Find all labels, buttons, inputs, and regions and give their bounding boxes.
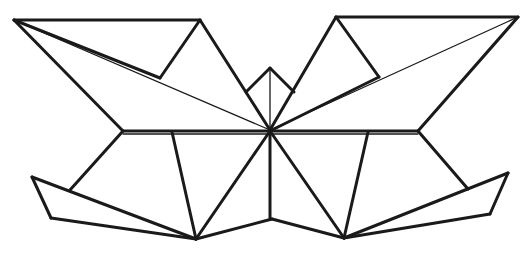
fold-line — [14, 20, 123, 131]
fold-line — [14, 20, 160, 78]
fold-line — [270, 68, 294, 92]
fold-line — [344, 132, 368, 238]
fold-line — [70, 131, 123, 190]
fold-line — [418, 131, 468, 189]
fold-line — [344, 173, 508, 238]
crease-line — [14, 20, 270, 130]
fold-line — [51, 218, 196, 239]
fold-line — [418, 17, 518, 131]
fold-line — [160, 20, 200, 78]
fold-line — [246, 68, 270, 92]
fold-line — [32, 177, 196, 239]
origami-butterfly-diagram — [0, 0, 528, 261]
crease-line — [270, 17, 518, 130]
fold-line — [336, 17, 379, 77]
fold-line — [172, 132, 196, 239]
fold-line — [200, 20, 270, 130]
fold-line — [344, 214, 490, 238]
